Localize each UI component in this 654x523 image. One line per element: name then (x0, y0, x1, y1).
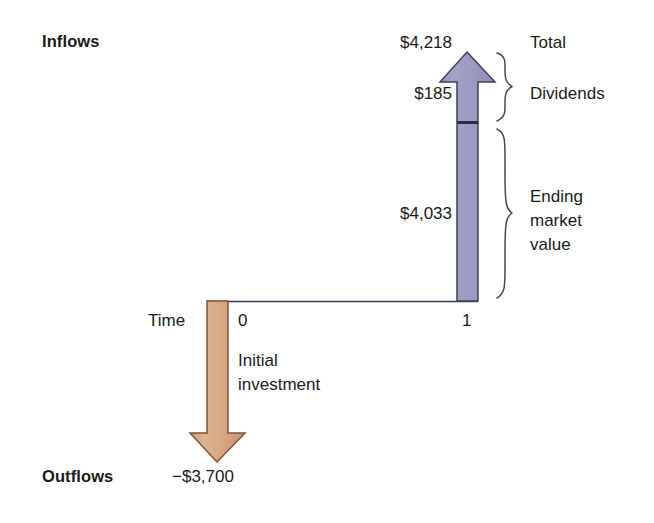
cash-flow-diagram: Inflows Outflows $4,218 $185 $4,033 Tota… (0, 0, 654, 523)
total-value: $4,218 (332, 32, 452, 53)
time-label: Time (148, 310, 185, 331)
dividends-value: $185 (332, 83, 452, 104)
outflows-label: Outflows (42, 466, 113, 487)
ending-caption-line-3: value (530, 233, 640, 257)
initial-investment-caption: Initial investment (238, 349, 388, 397)
ending-caption-line-1: Ending (530, 185, 640, 209)
ending-market-value-amount: $4,033 (332, 203, 452, 224)
diagram-artwork (0, 0, 654, 523)
ending-market-value-caption: Ending market value (530, 185, 640, 257)
dividends-brace (497, 53, 512, 121)
dividends-caption: Dividends (530, 83, 605, 104)
outflow-arrow (190, 301, 245, 462)
initial-investment-line-2: investment (238, 373, 388, 397)
ending-caption-line-2: market (530, 209, 640, 233)
total-caption: Total (530, 32, 566, 53)
initial-investment-line-1: Initial (238, 349, 388, 373)
outflow-value: −$3,700 (172, 466, 234, 487)
time-tick-1: 1 (462, 310, 471, 331)
time-tick-0: 0 (238, 310, 247, 331)
inflows-label: Inflows (42, 31, 100, 52)
ending-market-value-brace (497, 129, 512, 298)
